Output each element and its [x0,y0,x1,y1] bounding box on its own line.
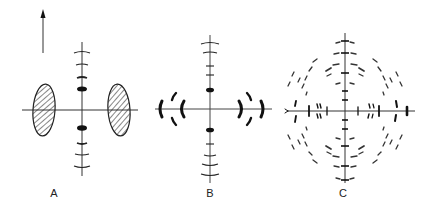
orientation-arrow-icon [41,9,46,53]
panel-label-b: B [206,187,213,199]
panel-label-a: A [50,187,57,199]
panel-b [155,35,272,183]
panel-c-axes [287,33,415,183]
panel-b-axes [155,35,272,183]
panel-c [285,33,415,183]
panel-a [22,42,138,176]
diffraction-diagram [0,0,436,209]
panel-label-c: C [339,187,347,199]
